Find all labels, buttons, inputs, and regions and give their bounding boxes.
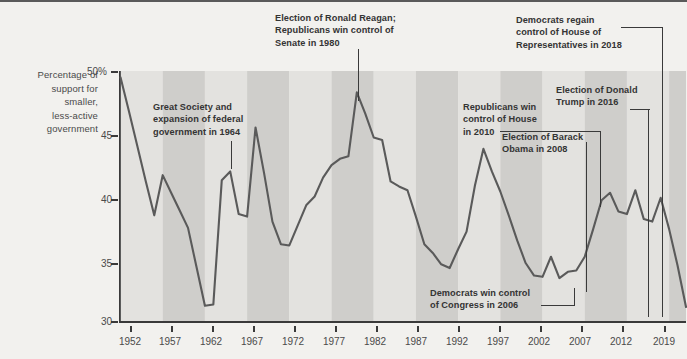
annotation-great-society: Great Society and expansion of federal g… (153, 101, 285, 138)
annotation-reagan-line-1: Election of Ronald Reagan; (275, 12, 410, 24)
annotation-democrats-2018-line-3: Representatives in 2018 (516, 39, 641, 51)
x-axis-line (119, 321, 686, 323)
leader-line-reagan (358, 49, 359, 101)
background-band (669, 71, 686, 322)
annotation-democrats-2018-line-1: Democrats regain (516, 14, 641, 26)
annotation-obama-2008-line-1: Election of Barack (502, 131, 606, 143)
leader-line-obama-2008 (586, 142, 587, 292)
leader-line-great-society (231, 141, 232, 169)
annotation-great-society-line-2: expansion of federal (153, 113, 285, 125)
leader-line-democrats-2018-vertical (662, 27, 663, 317)
leader-line-democrats-2006-vertical (574, 288, 575, 306)
annotation-reagan: Election of Ronald Reagan; Republicans w… (275, 12, 410, 49)
leader-line-democrats-2006-horizontal (541, 305, 575, 306)
annotation-republicans-2010-line-1: Republicans win (463, 101, 561, 113)
leader-line-trump-2016-vertical (648, 109, 649, 317)
y-axis-line (119, 71, 121, 323)
leader-line-trump-2016-horizontal (630, 109, 650, 110)
annotation-trump-2016: Election of Donald Trump in 2016 (556, 84, 668, 109)
leader-line-democrats-2018-horizontal (621, 27, 663, 28)
annotation-democrats-2006-line-2: of Congress in 2006 (430, 299, 555, 311)
annotation-great-society-line-1: Great Society and (153, 101, 285, 113)
annotation-democrats-2006: Democrats win control of Congress in 200… (430, 287, 555, 312)
annotation-democrats-2006-line-1: Democrats win control (430, 287, 555, 299)
annotation-democrats-2018: Democrats regain control of House of Rep… (516, 14, 641, 51)
chart-figure: Percentage of support for smaller, less-… (0, 0, 687, 359)
background-band (416, 71, 458, 322)
annotation-trump-2016-line-1: Election of Donald (556, 84, 668, 96)
background-band (332, 71, 374, 322)
background-band (289, 71, 331, 322)
annotation-obama-2008-line-2: Obama in 2008 (502, 143, 606, 155)
annotation-reagan-line-3: Senate in 1980 (275, 37, 410, 49)
annotation-obama-2008: Election of Barack Obama in 2008 (502, 131, 606, 156)
annotation-reagan-line-2: Republicans win control of (275, 24, 410, 36)
annotation-republicans-2010-line-2: control of House (463, 113, 561, 125)
plot-area (0, 0, 687, 359)
annotation-trump-2016-line-2: Trump in 2016 (556, 96, 668, 108)
annotation-great-society-line-3: government in 1964 (153, 126, 285, 138)
